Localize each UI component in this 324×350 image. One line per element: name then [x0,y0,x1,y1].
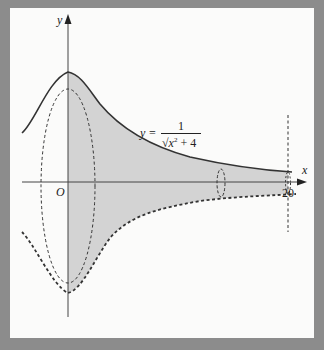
sqrt-symbol: √ [162,136,169,150]
origin-label: O [56,186,65,198]
denominator-constant: + 4 [177,136,196,150]
equation-numerator: 1 [178,119,184,134]
y-axis-label: y [57,14,62,26]
fraction-bar [161,133,201,134]
x-axis-arrow-icon [297,179,307,186]
x-axis-label: x [302,164,307,176]
x-tick-label-20: 20 [282,187,294,199]
equation-denominator: √x2 + 4 [162,136,196,151]
equation-lhs: y = [140,126,156,141]
diagram-canvas [0,0,324,350]
y-axis-arrow-icon [65,14,72,24]
